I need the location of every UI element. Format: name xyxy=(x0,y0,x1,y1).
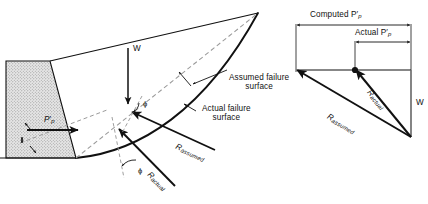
polygon-junction-node xyxy=(352,67,358,73)
retaining-wall xyxy=(6,61,76,158)
phi-arc-actual xyxy=(122,160,136,166)
pp-subscript: p xyxy=(51,118,54,124)
computed-pp-text: Computed P xyxy=(310,10,357,19)
weight-label-left: W xyxy=(133,44,141,53)
assumed-surface-line2: surface xyxy=(229,82,289,91)
actual-failure-surface-label: Actual failure surface xyxy=(202,104,251,123)
actual-surface-line2: surface xyxy=(202,113,251,122)
assumed-surface-line1: Assumed failure xyxy=(229,73,289,82)
phi-label-assumed: ϕ xyxy=(143,99,147,108)
assumed-line-pointer xyxy=(179,72,191,86)
actual-pp-text: Actual P xyxy=(355,28,386,37)
ground-surface-line xyxy=(50,13,258,61)
assumed-failure-surface-label: Assumed failure surface xyxy=(229,73,289,92)
actual-surface-line1: Actual failure xyxy=(202,104,251,113)
figure-canvas: W P′p Assumed failure surface Actual fai… xyxy=(0,0,428,204)
actual-pp-subscript: p xyxy=(388,31,391,37)
weight-label-right: W xyxy=(416,98,424,107)
actual-pp-label: Actual P′p xyxy=(355,28,391,39)
computed-pp-label: Computed P′p xyxy=(310,10,362,21)
passive-pressure-label: P′p xyxy=(44,115,55,126)
computed-pp-subscript: p xyxy=(358,13,361,19)
phi-label-actual: ϕ xyxy=(138,166,142,175)
